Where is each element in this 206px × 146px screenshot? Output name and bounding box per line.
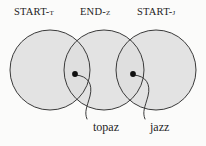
point-label-topaz: topaz <box>93 120 119 135</box>
venn-diagram-figure: START-t END-z START-j topaz jazz <box>0 0 206 146</box>
point-label-jazz: jazz <box>150 120 169 135</box>
set-label-start-j: START-j <box>137 6 175 17</box>
intersection-point-topaz <box>72 71 78 77</box>
set-label-end-z: END-z <box>80 6 110 17</box>
intersection-point-jazz <box>130 71 136 77</box>
set-label-start-t: START-t <box>14 6 54 17</box>
